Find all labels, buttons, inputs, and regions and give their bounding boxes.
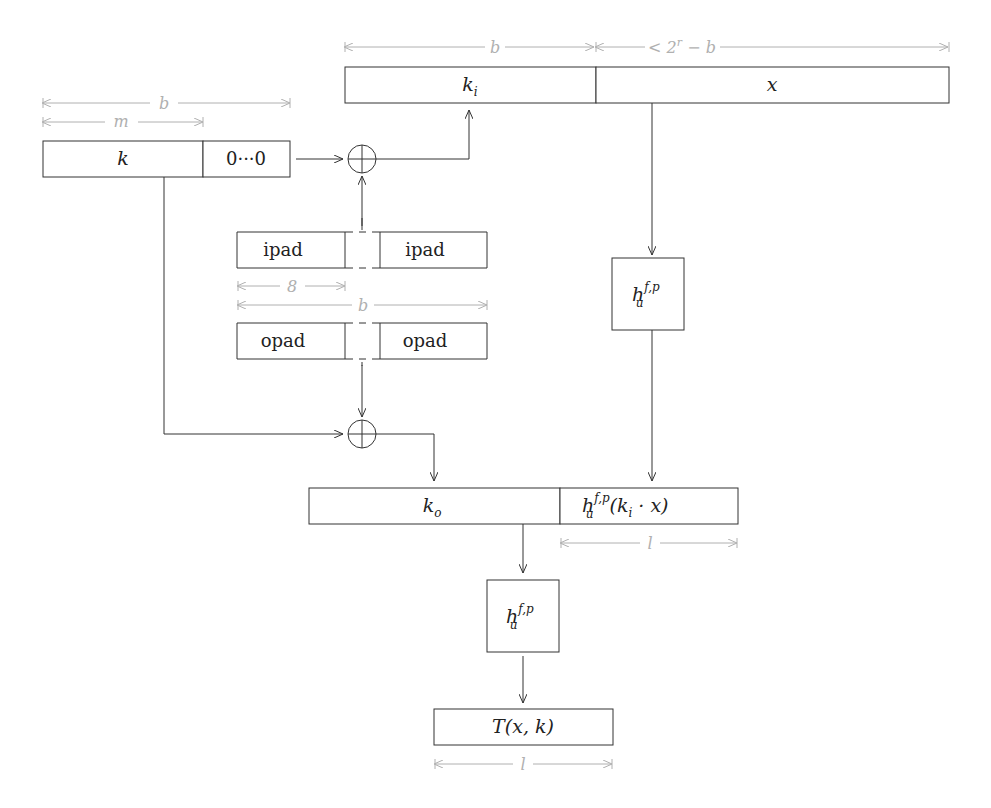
svg-text:< 2r − b: < 2r − b: [648, 36, 716, 57]
dimension-key-length: m: [43, 112, 203, 131]
block-inner-key: ki: [345, 67, 596, 103]
svg-text:b: b: [159, 94, 169, 113]
block-output-tag: T(x, k): [434, 709, 613, 745]
block-inner-hash-result: hf,pu(ki · x): [560, 488, 738, 524]
xor-top-icon: [348, 145, 376, 173]
svg-text:m: m: [113, 112, 128, 131]
dimension-ki-width: b: [345, 38, 594, 57]
svg-text:l: l: [520, 755, 525, 774]
block-outer-hash: hf,pu: [487, 580, 559, 652]
dimension-pad-byte: 8: [238, 277, 345, 296]
block-message-x: x: [596, 67, 949, 103]
svg-text:x: x: [767, 73, 778, 95]
svg-text:k: k: [117, 147, 129, 169]
svg-text:opad: opad: [403, 330, 448, 351]
svg-text:l: l: [647, 534, 652, 553]
svg-text:b: b: [490, 38, 500, 57]
svg-text:ipad: ipad: [263, 239, 303, 260]
block-inner-hash: hf,pu: [612, 258, 684, 330]
block-opad: opad opad: [237, 323, 487, 359]
svg-text:ipad: ipad: [405, 239, 445, 260]
block-outer-key: ko: [309, 488, 560, 524]
dimension-pad-block: b: [238, 296, 487, 315]
arrow-xor-to-ko: [376, 434, 434, 481]
block-zero-padding: 0···0: [203, 141, 290, 177]
dimension-x-width: < 2r − b: [596, 36, 949, 57]
block-key: k: [43, 141, 203, 177]
block-ipad: ipad ipad: [237, 232, 487, 268]
xor-bottom-icon: [348, 420, 376, 448]
svg-text:0···0: 0···0: [226, 148, 266, 169]
arrow-xor-to-ki: [376, 110, 469, 159]
dimension-key-block: b: [43, 94, 290, 113]
dimension-inner-length: l: [561, 534, 737, 553]
svg-text:opad: opad: [261, 330, 306, 351]
svg-text:8: 8: [287, 277, 297, 296]
dimension-output-length: l: [435, 755, 612, 774]
svg-text:b: b: [358, 296, 368, 315]
svg-text:T(x, k): T(x, k): [492, 715, 554, 737]
